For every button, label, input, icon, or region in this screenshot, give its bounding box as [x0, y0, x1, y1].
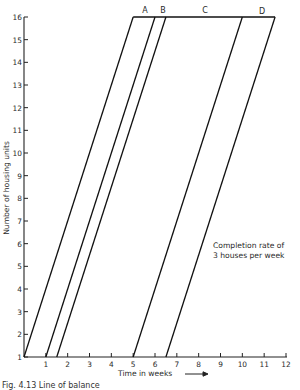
segment-label-b: B: [160, 6, 166, 15]
segment-label-d: D: [259, 7, 265, 16]
data-series: [24, 17, 275, 357]
y-tick-label: 11: [13, 126, 23, 135]
y-ticks: 12345678910111213141516: [13, 13, 28, 362]
x-tick-label: 12: [281, 360, 290, 369]
y-tick-label: 1: [17, 353, 22, 362]
x-tick-label: 11: [259, 360, 269, 369]
x-tick-label: 1: [43, 360, 48, 369]
x-tick-label: 4: [109, 360, 114, 369]
x-tick-label: 9: [218, 360, 223, 369]
y-tick-label: 13: [13, 81, 23, 90]
line-2: [46, 17, 155, 357]
axes: [24, 17, 287, 357]
x-tick-label: 5: [131, 360, 136, 369]
segment-label-c: C: [202, 6, 208, 15]
y-tick-label: 16: [13, 13, 23, 22]
annotation-line-2: 3 houses per week: [213, 251, 285, 260]
y-tick-label: 2: [17, 330, 22, 339]
y-tick-label: 9: [17, 172, 22, 181]
y-tick-label: 3: [17, 308, 22, 317]
y-tick-label: 15: [13, 36, 23, 45]
x-tick-label: 8: [196, 360, 201, 369]
line-1: [24, 17, 133, 357]
y-tick-label: 7: [17, 217, 22, 226]
y-tick-label: 14: [13, 58, 23, 67]
y-tick-label: 6: [17, 240, 22, 249]
y-axis-label: Number of housing units: [2, 141, 11, 235]
figure-caption: Fig. 4.13 Line of balance: [2, 381, 100, 390]
annotation-line-1: Completion rate of: [213, 241, 284, 250]
x-tick-label: 2: [65, 360, 70, 369]
line-5: [166, 17, 275, 357]
x-tick-label: 3: [87, 360, 92, 369]
y-tick-label: 5: [17, 262, 22, 271]
arrow-right-icon: [185, 372, 208, 376]
y-tick-label: 12: [13, 104, 22, 113]
x-tick-label: 7: [174, 360, 179, 369]
y-tick-label: 8: [17, 194, 22, 203]
segment-label-a: A: [142, 6, 148, 15]
x-axis-label: Time in weeks: [117, 369, 172, 378]
x-tick-label: 6: [153, 360, 158, 369]
x-tick-label: 10: [238, 360, 248, 369]
y-tick-label: 10: [13, 149, 23, 158]
y-tick-label: 4: [17, 285, 22, 294]
